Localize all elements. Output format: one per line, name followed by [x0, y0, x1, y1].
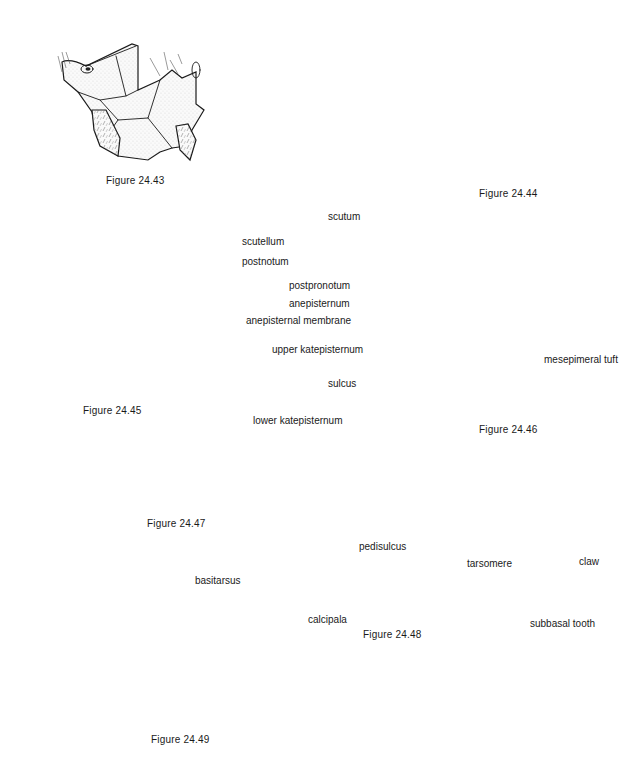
- label-pedisulcus: pedisulcus: [359, 541, 406, 552]
- label-anepisternal-membrane: anepisternal membrane: [246, 315, 351, 326]
- label-anepisternum: anepisternum: [289, 298, 350, 309]
- label-upper-katepisternum: upper katepisternum: [272, 344, 363, 355]
- label-tarsomere: tarsomere: [467, 558, 512, 569]
- label-claw: claw: [579, 556, 599, 567]
- caption-figure-24-44: Figure 24.44: [479, 188, 538, 199]
- caption-figure-24-45: Figure 24.45: [83, 405, 142, 416]
- diagram-canvas: [0, 0, 632, 761]
- label-subbasal-tooth: subbasal tooth: [530, 618, 595, 629]
- caption-figure-24-49: Figure 24.49: [151, 734, 210, 745]
- label-postpronotum: postpronotum: [289, 280, 350, 291]
- caption-figure-24-47: Figure 24.47: [147, 518, 206, 529]
- label-basitarsus: basitarsus: [195, 575, 241, 586]
- caption-figure-24-43: Figure 24.43: [106, 175, 165, 186]
- label-postnotum: postnotum: [242, 256, 289, 267]
- label-scutum: scutum: [328, 211, 360, 222]
- caption-figure-24-46: Figure 24.46: [479, 424, 538, 435]
- label-calcipala: calcipala: [308, 614, 347, 625]
- caption-figure-24-48: Figure 24.48: [363, 629, 422, 640]
- figure-24-43-drawing: [58, 44, 204, 160]
- label-sulcus: sulcus: [328, 378, 356, 389]
- label-lower-katepisternum: lower katepisternum: [253, 415, 342, 426]
- label-mesepimeral-tuft: mesepimeral tuft: [544, 354, 618, 365]
- label-scutellum: scutellum: [242, 236, 284, 247]
